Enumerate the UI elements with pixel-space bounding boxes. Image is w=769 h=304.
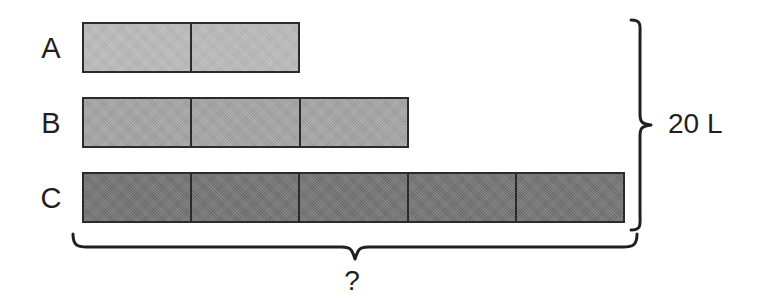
row-label-b: B bbox=[34, 109, 68, 138]
bar-segment bbox=[84, 24, 192, 71]
right-brace bbox=[628, 18, 654, 232]
bottom-brace bbox=[70, 232, 640, 266]
bar-segment bbox=[84, 174, 192, 221]
bar-segment bbox=[192, 174, 300, 221]
bar-row-c bbox=[82, 172, 625, 223]
bar-segment bbox=[409, 174, 517, 221]
bar-segment bbox=[84, 99, 192, 146]
total-volume-label: 20 L bbox=[668, 110, 723, 138]
row-label-a: A bbox=[34, 34, 68, 63]
bar-row-a bbox=[82, 22, 300, 73]
row-label-c: C bbox=[34, 184, 68, 213]
bar-segment bbox=[517, 174, 623, 221]
bar-segment bbox=[300, 174, 408, 221]
tape-diagram: A B C 20 L ? bbox=[0, 0, 769, 304]
bar-segment bbox=[192, 24, 298, 71]
bar-segment bbox=[301, 99, 407, 146]
bar-row-b bbox=[82, 97, 409, 148]
bar-segment bbox=[192, 99, 300, 146]
unknown-length-label: ? bbox=[332, 267, 372, 295]
